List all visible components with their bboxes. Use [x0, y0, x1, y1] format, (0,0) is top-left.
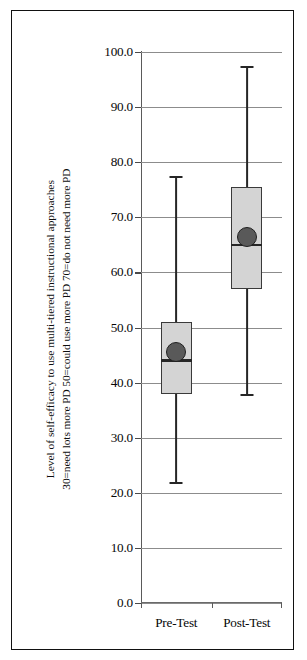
y-tick-label: 20.0	[111, 485, 133, 501]
plot-area: 100.090.080.070.060.050.040.030.020.010.…	[141, 52, 282, 603]
y-axis-title: Level of self-efficacy to use multi-tier…	[22, 11, 94, 647]
y-tick-mark	[135, 107, 141, 108]
y-tick-label: 30.0	[111, 430, 133, 446]
y-tick-label: 60.0	[111, 264, 133, 280]
lower-whisker-cap	[240, 394, 253, 396]
y-tick-label: 80.0	[111, 154, 133, 170]
box-plot-pre-test	[161, 52, 192, 603]
y-tick-label: 10.0	[111, 540, 133, 556]
box-plot-post-test	[231, 52, 262, 603]
x-tick-mark	[212, 603, 213, 608]
upper-whisker	[246, 66, 248, 187]
lower-whisker-cap	[170, 482, 183, 484]
x-axis-label-post-test: Post-Test	[223, 615, 270, 631]
upper-whisker	[175, 176, 177, 322]
y-axis-title-line1: Level of self-efficacy to use multi-tier…	[42, 168, 58, 489]
y-tick-label: 50.0	[111, 320, 133, 336]
x-tick-mark	[281, 603, 282, 608]
y-tick-mark	[135, 548, 141, 549]
y-tick-mark	[135, 438, 141, 439]
y-tick-label: 90.0	[111, 99, 133, 115]
lower-whisker	[246, 289, 248, 394]
mean-marker	[166, 342, 186, 362]
y-tick-mark	[135, 493, 141, 494]
y-axis-title-line2: 30=need lots more PD 50=could use more P…	[58, 168, 74, 489]
y-tick-label: 70.0	[111, 209, 133, 225]
x-tick-mark	[141, 603, 142, 608]
y-tick-mark	[135, 383, 141, 384]
y-tick-mark	[135, 162, 141, 163]
y-tick-label: 100.0	[104, 44, 133, 60]
upper-whisker-cap	[170, 176, 183, 178]
y-tick-mark	[135, 52, 141, 53]
y-tick-mark	[135, 328, 141, 329]
figure-frame: Level of self-efficacy to use multi-tier…	[11, 10, 294, 650]
y-tick-label: 40.0	[111, 375, 133, 391]
y-tick-mark	[135, 217, 141, 218]
y-tick-label: 0.0	[117, 595, 133, 611]
upper-whisker-cap	[240, 66, 253, 68]
y-tick-mark	[135, 272, 141, 273]
mean-marker	[237, 227, 257, 247]
x-axis-label-pre-test: Pre-Test	[155, 615, 197, 631]
lower-whisker	[175, 394, 177, 482]
